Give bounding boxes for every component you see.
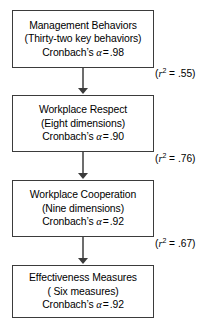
- connector-line-2: [82, 152, 84, 173]
- paren-close: ): [192, 238, 195, 249]
- r2-value: .67: [178, 238, 192, 249]
- alpha-symbol: α: [96, 131, 101, 142]
- node-title-line: Workplace Respect: [39, 103, 127, 117]
- edge-label-r2-3: (r2 = .67): [155, 238, 195, 250]
- reliability-value: .98: [110, 47, 124, 58]
- node-title-line: Management Behaviors: [29, 19, 137, 33]
- path-model-diagram: Management Behaviors (Thirty-two key beh…: [0, 0, 217, 331]
- reliability-value: .92: [110, 216, 124, 227]
- arrowhead-icon-2: [78, 173, 88, 179]
- node-title-line: Effectiveness Measures: [29, 271, 137, 285]
- edge-label-r2-2: (r2 = .76): [155, 153, 195, 165]
- equals-sign: =: [102, 131, 110, 142]
- paren-close: ): [192, 68, 195, 79]
- node-subtitle-line: (Nine dimensions): [42, 202, 124, 216]
- alpha-symbol: α: [96, 216, 101, 227]
- connector-line-3: [82, 237, 84, 258]
- node-reliability-line: Cronbach’s α=.92: [42, 298, 124, 312]
- node-effectiveness-measures: Effectiveness Measures ( Six measures) C…: [12, 265, 154, 318]
- node-reliability-line: Cronbach’s α=.90: [42, 130, 124, 144]
- paren-close: ): [192, 153, 195, 164]
- node-subtitle-line: (Eight dimensions): [41, 117, 125, 131]
- equals-sign: =: [166, 68, 178, 79]
- node-subtitle-line: ( Six measures): [47, 285, 118, 299]
- r2-value: .55: [178, 68, 192, 79]
- equals-sign: =: [102, 299, 110, 310]
- node-workplace-respect: Workplace Respect (Eight dimensions) Cro…: [12, 95, 154, 152]
- reliability-label: Cronbach’s: [42, 131, 93, 142]
- node-management-behaviors: Management Behaviors (Thirty-two key beh…: [12, 10, 154, 68]
- equals-sign: =: [102, 216, 110, 227]
- reliability-value: .92: [110, 299, 124, 310]
- equals-sign: =: [166, 238, 178, 249]
- arrowhead-icon-1: [78, 88, 88, 94]
- reliability-label: Cronbach’s: [42, 216, 93, 227]
- equals-sign: =: [102, 47, 110, 58]
- node-subtitle-line: (Thirty-two key behaviors): [25, 32, 142, 46]
- edge-label-r2-1: (r2 = .55): [155, 68, 195, 80]
- alpha-symbol: α: [96, 299, 101, 310]
- equals-sign: =: [166, 153, 178, 164]
- node-reliability-line: Cronbach’s α=.92: [42, 215, 124, 229]
- node-title-line: Workplace Cooperation: [30, 188, 136, 202]
- alpha-symbol: α: [96, 47, 101, 58]
- reliability-label: Cronbach’s: [42, 47, 93, 58]
- connector-line-1: [82, 68, 84, 89]
- node-reliability-line: Cronbach’s α=.98: [42, 46, 124, 60]
- reliability-label: Cronbach’s: [42, 299, 93, 310]
- r2-value: .76: [178, 153, 192, 164]
- node-workplace-cooperation: Workplace Cooperation (Nine dimensions) …: [12, 180, 154, 237]
- reliability-value: .90: [110, 131, 124, 142]
- arrowhead-icon-3: [78, 258, 88, 264]
